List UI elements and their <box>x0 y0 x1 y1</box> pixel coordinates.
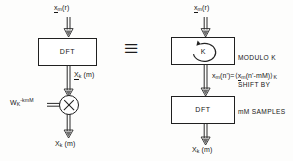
caption-line-1: MODULO K <box>238 53 285 62</box>
right-input-arrow <box>199 17 213 38</box>
left-input-arrow <box>62 17 76 38</box>
left-input-signal-label: xm(r) <box>54 4 69 13</box>
right-output-label: Xk (m) <box>192 146 212 155</box>
multiplier-node <box>59 95 79 115</box>
right-dft-block: DFT <box>171 96 235 124</box>
left-intermediate-label: Xk (m) <box>74 71 94 80</box>
right-input-signal-label: xm(r) <box>194 4 209 13</box>
left-output-arg: (m) <box>65 140 76 147</box>
left-intermediate-arg: (m) <box>84 71 95 78</box>
right-output-arg: (m) <box>202 146 213 153</box>
equation-modulus: K <box>273 74 277 80</box>
modulo-shift-caption: MODULO K SHIFT BY mM SAMPLES <box>238 35 285 134</box>
left-output-subscript: k <box>60 142 63 148</box>
modulo-shift-symbol: K <box>172 48 234 55</box>
caption-line-2: SHIFT BY <box>238 80 285 89</box>
equation-lhs-arg: (n') <box>220 72 230 79</box>
twiddle-superscript: -kmM <box>20 97 33 103</box>
modulo-shift-block: K <box>171 37 235 65</box>
right-output-subscript: k <box>197 148 200 154</box>
left-input-arg: (r) <box>62 4 69 11</box>
right-intermediate-arrow <box>199 65 213 97</box>
modulo-shift-equation: xm(n')=⟨xm(n'-mM)⟩K <box>212 72 277 81</box>
left-intermediate-subscript: k <box>79 73 82 79</box>
right-output-arrow <box>199 124 213 146</box>
twiddle-base: W <box>10 99 17 106</box>
right-input-arg: (r) <box>202 4 209 11</box>
caption-line-3: mM SAMPLES <box>238 107 285 116</box>
equation-rhs-arg: (n'-mM) <box>246 72 271 79</box>
diagram-canvas: xm(r) DFT Xk (m) WK-kmM <box>0 0 293 161</box>
left-output-label: Xk (m) <box>55 140 75 149</box>
twiddle-factor-label: WK-kmM <box>10 98 34 108</box>
left-output-arrow <box>62 114 76 139</box>
left-dft-block: DFT <box>38 38 97 66</box>
left-dft-label: DFT <box>39 48 96 55</box>
equivalence-symbol: ≡ <box>124 36 139 62</box>
right-dft-label: DFT <box>172 106 234 113</box>
